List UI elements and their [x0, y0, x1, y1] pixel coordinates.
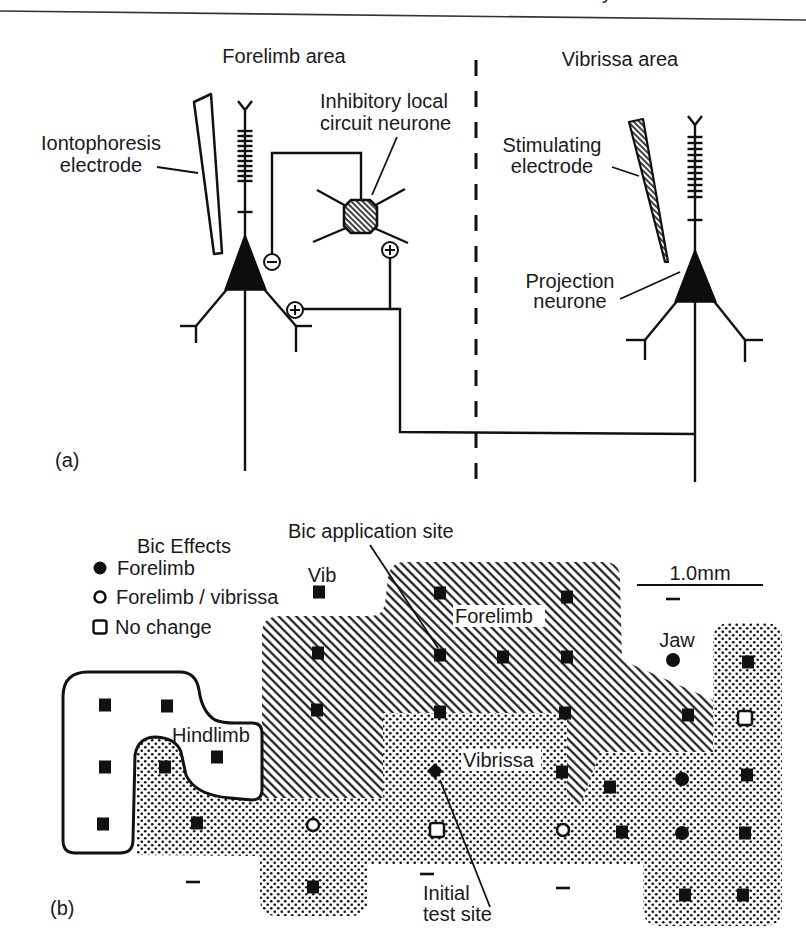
site-marker	[434, 587, 446, 600]
figure: y Forelimb area Vibrissa area	[0, 0, 806, 949]
legend: Bic Effects Forelimb Forelimb / vibrissa…	[94, 535, 280, 638]
plus-synapse-icon	[382, 242, 398, 258]
forelimb-marker	[675, 826, 689, 840]
inhibitory-neurone-soma	[344, 200, 377, 233]
stimulating-leader-line	[612, 167, 639, 176]
iontophoresis-electrode	[194, 94, 222, 254]
stimulating-electrode	[629, 119, 668, 262]
plus-synapse-icon	[287, 302, 303, 318]
site-marker	[741, 769, 753, 782]
site-marker	[99, 699, 111, 712]
site-marker	[561, 651, 573, 664]
site-marker	[434, 706, 446, 719]
iontophoresis-label-line2: electrode	[60, 154, 142, 176]
legend-filled-circle-icon	[94, 562, 107, 575]
inhibitory-label-line1: Inhibitory local	[320, 90, 448, 112]
forelimb-neurone	[180, 101, 312, 471]
panel-b-label: (b)	[50, 897, 74, 919]
forelimb-marker	[666, 653, 680, 667]
forelimb-marker	[675, 772, 689, 786]
hindlimb-region-label: Hindlimb	[172, 724, 250, 746]
stimulating-label-line2: electrode	[511, 155, 593, 177]
forelimb-vibrissa-marker	[557, 824, 569, 836]
site-marker	[97, 818, 109, 831]
site-marker	[556, 766, 568, 779]
site-marker	[616, 826, 628, 839]
jaw-label: Jaw	[659, 629, 695, 651]
projection-neurone-soma	[675, 250, 716, 302]
site-marker	[307, 881, 319, 894]
site-marker	[312, 647, 324, 660]
forelimb-area-title: Forelimb area	[222, 45, 346, 67]
projection-axon-path	[303, 309, 695, 434]
site-marker	[497, 651, 509, 664]
no-change-marker	[738, 711, 752, 725]
site-marker	[559, 707, 571, 720]
projection-leader-line	[620, 272, 680, 299]
header-fragment: y	[602, 0, 612, 3]
forelimb-neurone-soma	[225, 235, 266, 290]
inhibitory-leader-line	[372, 137, 397, 195]
vibrissa-region-label: Vibrissa	[463, 749, 535, 771]
stimulating-label-line1: Stimulating	[503, 134, 602, 156]
legend-open-circle-icon	[95, 592, 106, 603]
site-marker	[434, 649, 446, 662]
site-marker	[99, 761, 111, 774]
site-marker	[561, 591, 573, 604]
legend-item-forelimb: Forelimb	[117, 557, 195, 579]
site-marker	[737, 889, 749, 902]
legend-title: Bic Effects	[137, 535, 231, 557]
legend-item-no-change: No change	[115, 616, 212, 638]
site-marker	[679, 889, 691, 902]
site-marker	[191, 817, 203, 830]
legend-item-forelimb-vibrissa: Forelimb / vibrissa	[116, 586, 279, 608]
iontophoresis-leader-line	[157, 167, 198, 173]
site-marker	[211, 751, 223, 764]
panel-a: Forelimb area Vibrissa area	[41, 45, 763, 482]
site-marker	[159, 761, 171, 774]
panel-a-label: (a)	[55, 449, 79, 471]
no-change-marker	[430, 823, 444, 837]
minus-synapse-icon	[264, 254, 280, 270]
site-marker	[739, 827, 751, 840]
page-header-rule	[0, 11, 806, 20]
site-marker	[742, 656, 754, 669]
site-marker	[161, 700, 173, 713]
projection-label-line1: Projection	[526, 270, 615, 292]
scale-bar: 1.0mm	[637, 562, 763, 585]
forelimb-vibrissa-marker	[307, 819, 319, 831]
vibrissa-area-title: Vibrissa area	[562, 48, 679, 70]
initial-test-site-label-line2: test site	[423, 903, 492, 925]
bic-application-site-label: Bic application site	[288, 520, 454, 542]
site-marker	[313, 586, 325, 599]
initial-test-site-label-line1: Initial	[423, 882, 470, 904]
projection-label-line2: neurone	[533, 290, 606, 312]
panel-b: Forelimb Vibrissa Hindlimb Bic Effects F…	[50, 520, 782, 926]
site-marker	[604, 781, 616, 794]
legend-open-square-icon	[94, 621, 107, 634]
site-marker	[311, 704, 323, 717]
inhibitory-label-line2: circuit neurone	[320, 112, 451, 134]
site-marker	[682, 709, 694, 722]
scale-bar-label: 1.0mm	[669, 562, 730, 584]
forelimb-region-label: Forelimb	[455, 605, 533, 627]
vib-label: Vib	[308, 564, 337, 586]
iontophoresis-label-line1: Iontophoresis	[41, 132, 161, 154]
